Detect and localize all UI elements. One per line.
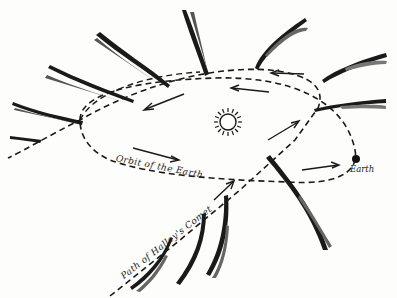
sun-icon bbox=[214, 108, 242, 136]
direction-arrows bbox=[133, 70, 339, 200]
comet-icon bbox=[10, 136, 42, 143]
halley-comet-diagram: Orbit of the Earth Path of Halley's Come… bbox=[0, 0, 397, 298]
arrow-icon bbox=[268, 121, 299, 140]
arrow-icon bbox=[144, 94, 184, 110]
arrow-icon bbox=[231, 85, 269, 92]
comet-tails bbox=[10, 10, 387, 292]
comet-icon bbox=[266, 155, 328, 250]
arrow-icon bbox=[271, 70, 304, 76]
arrow-icon bbox=[214, 181, 234, 200]
comet-icon bbox=[96, 32, 170, 88]
comet-icon bbox=[12, 102, 83, 125]
earth-orbit bbox=[80, 78, 356, 183]
earth-icon bbox=[352, 155, 360, 163]
comet-icon bbox=[48, 65, 134, 103]
comet-icon bbox=[255, 18, 307, 70]
arrow-icon bbox=[302, 162, 339, 170]
earth-label: Earth bbox=[350, 164, 374, 174]
